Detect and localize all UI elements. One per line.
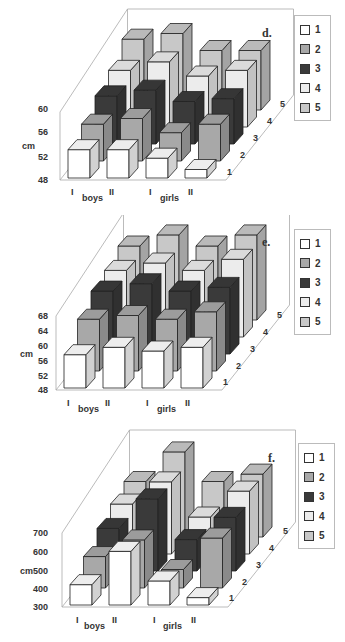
legend-e: 1 2 3 4 5 (294, 229, 331, 335)
depth-label: 1 (223, 377, 228, 387)
figure-page: d. cm 60 56 52 48 I boys II I girls II 1… (0, 0, 345, 642)
depth-label: 5 (283, 526, 288, 536)
depth-label: 5 (277, 310, 282, 320)
y-tick: 60 (22, 341, 48, 351)
group-label-boys: boys (78, 404, 99, 414)
swatch-icon (300, 317, 310, 327)
x-tick: II (188, 187, 193, 197)
swatch-icon (300, 83, 310, 93)
legend-item: 1 (300, 234, 330, 254)
swatch-icon (304, 472, 314, 482)
group-label-boys: boys (84, 621, 105, 631)
swatch-icon (300, 64, 310, 74)
depth-label: 3 (256, 560, 261, 570)
bar-front (181, 347, 203, 388)
depth-label: 5 (280, 99, 285, 109)
depth-label: 3 (250, 344, 255, 354)
bar-front (201, 538, 223, 588)
swatch-icon (300, 278, 310, 288)
swatch-icon (300, 239, 310, 249)
legend-item: 3 (300, 273, 330, 293)
chart-f-plot (0, 425, 345, 642)
x-tick: II (109, 187, 114, 197)
bar-side (131, 541, 140, 605)
bar-side (250, 481, 259, 554)
legend-item: 4 (304, 507, 334, 527)
x-tick: II (185, 398, 190, 408)
legend-item: 5 (300, 98, 330, 118)
depth-label: 2 (236, 361, 241, 371)
x-tick: II (105, 398, 110, 408)
x-tick: I (71, 187, 74, 197)
legend-item: 2 (304, 468, 334, 488)
group-label-girls: girls (160, 193, 179, 203)
y-tick: 400 (22, 584, 48, 594)
panel-label-d: d. (262, 26, 272, 41)
legend-item: 1 (300, 20, 330, 40)
group-label-girls: girls (163, 621, 182, 631)
y-tick: 600 (22, 547, 48, 557)
depth-label: 3 (253, 133, 258, 143)
panel-label-f: f. (268, 451, 275, 466)
legend-item: 5 (304, 526, 334, 546)
bar-front (64, 355, 86, 388)
legend-f: 1 2 3 4 5 (298, 443, 335, 549)
y-tick: 52 (22, 152, 48, 162)
bar-side (261, 41, 270, 111)
y-tick: 48 (22, 385, 48, 395)
bar-side (244, 249, 253, 337)
x-tick: I (146, 398, 149, 408)
bar-front (199, 124, 221, 161)
bar-front (146, 158, 168, 178)
legend-d: 1 2 3 4 5 (294, 15, 331, 121)
swatch-icon (300, 44, 310, 54)
depth-label: 4 (267, 116, 272, 126)
y-tick: 56 (22, 356, 48, 366)
depth-label: 4 (263, 327, 268, 337)
depth-label: 1 (227, 167, 232, 177)
depth-label: 2 (240, 150, 245, 160)
group-label-boys: boys (82, 193, 103, 203)
bar-front (70, 585, 92, 605)
swatch-icon (304, 492, 314, 502)
swatch-icon (300, 297, 310, 307)
bar-front (109, 551, 131, 605)
y-tick: 52 (22, 371, 48, 381)
bar-side (158, 489, 167, 571)
legend-item: 5 (300, 312, 330, 332)
y-tick: 68 (22, 311, 48, 321)
legend-item: 2 (300, 40, 330, 60)
bar-side (248, 60, 257, 127)
legend-item: 2 (300, 254, 330, 274)
y-tick: 500 (22, 566, 48, 576)
panel-label-e: e. (262, 235, 270, 250)
legend-item: 4 (300, 293, 330, 313)
legend-item: 4 (300, 79, 330, 99)
bar-front (187, 598, 209, 605)
bar-front (103, 347, 125, 388)
chart-e: e. cm 68 64 60 56 52 48 I boys II I girl… (0, 215, 345, 425)
bar-side (230, 277, 239, 354)
swatch-icon (304, 511, 314, 521)
depth-label: 4 (269, 543, 274, 553)
y-tick: 48 (22, 175, 48, 185)
y-tick: 700 (22, 528, 48, 538)
depth-label: 1 (229, 593, 234, 603)
x-tick: I (76, 615, 79, 625)
swatch-icon (304, 531, 314, 541)
bar-front (68, 150, 90, 178)
y-tick: 300 (22, 602, 48, 612)
swatch-icon (300, 258, 310, 268)
bar-front (148, 581, 170, 605)
legend-item: 1 (304, 448, 334, 468)
swatch-icon (300, 25, 310, 35)
x-tick: I (149, 187, 152, 197)
x-tick: II (191, 615, 196, 625)
legend-item: 3 (304, 487, 334, 507)
bar-front (142, 351, 164, 388)
y-axis-label: cm (22, 141, 35, 151)
x-tick: I (67, 398, 70, 408)
swatch-icon (304, 453, 314, 463)
bar-front (185, 170, 207, 179)
y-tick: 64 (22, 326, 48, 336)
